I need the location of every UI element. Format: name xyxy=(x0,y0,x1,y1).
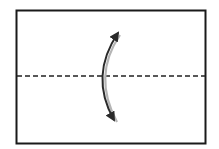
paper-sheet xyxy=(17,11,206,144)
fold-diagram xyxy=(0,0,219,149)
